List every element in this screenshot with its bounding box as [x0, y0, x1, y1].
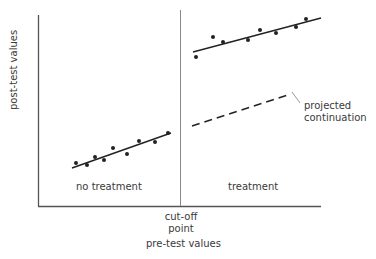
annotation-line-2: continuation: [304, 112, 367, 124]
annotation-line-1: projected: [304, 100, 367, 112]
projected-continuation-line: [192, 94, 291, 126]
no-treatment-regression-line: [72, 133, 171, 168]
projected-continuation-label: projected continuation: [304, 100, 367, 124]
region-right-label: treatment: [228, 181, 278, 192]
region-left-label: no treatment: [76, 181, 142, 192]
cutoff-line-1: cut-off: [160, 211, 202, 223]
y-axis-label: post-test values: [8, 30, 19, 110]
treatment-regression-line: [193, 18, 321, 52]
x-axis-label: pre-test values: [146, 238, 221, 249]
cutoff-point-label: cut-off point: [160, 211, 202, 235]
treatment-points: [194, 17, 308, 59]
annotation-leader-line: [292, 92, 300, 103]
cutoff-line-2: point: [160, 223, 202, 235]
